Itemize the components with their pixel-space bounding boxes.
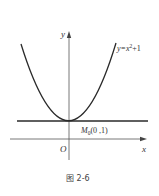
point-coordinates: (0 ,1) [90,126,108,135]
curve-equation-suffix: +1 [132,44,141,53]
curve-equation-main: y=x [116,44,130,53]
figure-canvas: y x O y=x2+1 M0(0 ,1) 图 2-6 [0,0,159,196]
y-axis-arrow-icon [67,31,71,38]
x-axis [10,137,147,141]
parabola-curve [21,43,116,121]
point-label: M0(0 ,1) [80,126,108,136]
curve-equation-label: y=x2+1 [116,43,141,53]
x-axis-label: x [141,144,146,154]
y-axis-label: y [60,29,65,39]
y-axis [67,31,71,160]
figure-caption: 图 2-6 [66,174,90,183]
origin-label: O [60,144,67,154]
x-axis-arrow-icon [140,137,147,141]
